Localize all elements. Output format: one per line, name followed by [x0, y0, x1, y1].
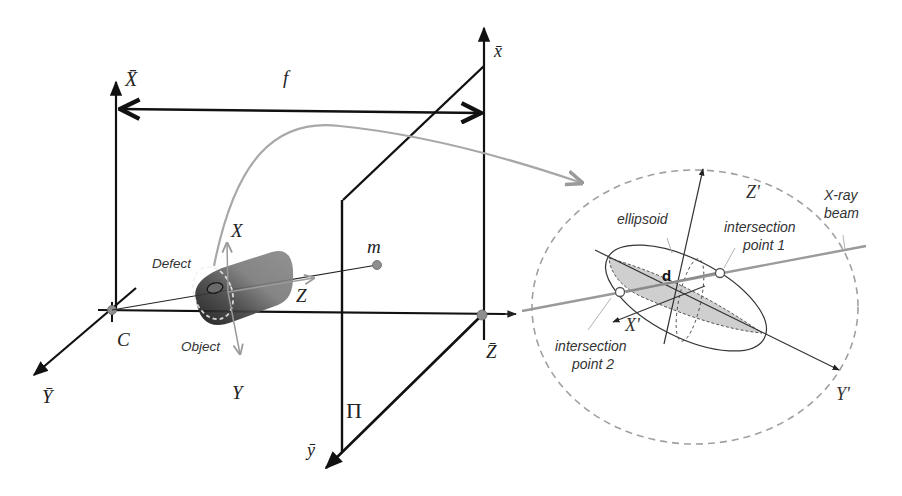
label-d: d — [662, 267, 671, 284]
object-cylinder — [186, 251, 293, 325]
label-x-bar-image: x̄ — [493, 41, 502, 61]
label-X: X — [230, 220, 244, 241]
intersection-point-2 — [616, 288, 625, 297]
label-C: C — [117, 329, 130, 350]
label-pi: Π — [346, 398, 362, 423]
label-ip2-line1: intersection — [555, 338, 627, 354]
label-x-bar: X̄ — [124, 68, 138, 90]
diagram-canvas: X̄ f x̄ C Ȳ Z̄ ȳ Π m X Z Y Defect Object… — [0, 0, 902, 496]
label-y-prime: Y' — [836, 384, 851, 404]
principal-point — [477, 310, 487, 320]
label-y-bar-image: ȳ — [305, 440, 316, 460]
label-Y: Y — [232, 382, 245, 403]
z-bar-axis-line — [98, 310, 505, 314]
y-bar-image-axis — [326, 315, 482, 468]
label-x-prime: X' — [624, 315, 641, 335]
label-z-prime: Z' — [746, 182, 761, 202]
label-xray-line2: beam — [824, 205, 859, 221]
label-ip1-line1: intersection — [724, 219, 796, 235]
label-defect: Defect — [152, 256, 192, 271]
label-ip2-line2: point 2 — [571, 356, 614, 372]
intersection-point-1 — [716, 269, 725, 278]
camera-frame — [34, 82, 516, 375]
label-xray-line1: X-ray — [823, 187, 858, 203]
ellipsoid-detail — [522, 169, 866, 444]
label-y-bar: Ȳ — [42, 386, 55, 407]
label-ip1-line2: point 1 — [742, 237, 785, 253]
label-m: m — [367, 236, 381, 257]
label-object: Object — [181, 339, 221, 354]
object-x-axis — [227, 243, 228, 292]
y-prime-axis — [595, 250, 839, 370]
label-ellipsoid: ellipsoid — [617, 211, 669, 227]
projection-diagram: X̄ f x̄ C Ȳ Z̄ ȳ Π m X Z Y Defect Object… — [0, 0, 902, 496]
label-Z: Z — [296, 285, 307, 306]
label-f: f — [283, 67, 291, 88]
labels: X̄ f x̄ C Ȳ Z̄ ȳ Π m X Z Y Defect Object… — [42, 41, 859, 460]
focal-length-arrow — [120, 109, 481, 113]
label-z-bar: Z̄ — [486, 341, 497, 362]
point-m — [373, 261, 382, 270]
